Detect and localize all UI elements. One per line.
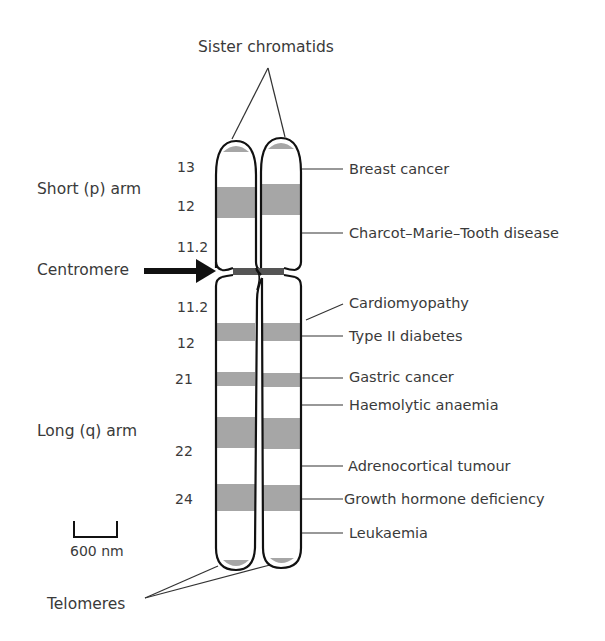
sister-chromatids-pointer xyxy=(232,68,285,139)
band-number-q12: 12 xyxy=(177,336,195,350)
sister-chromatids-label: Sister chromatids xyxy=(198,40,334,56)
disease-label-gastric-cancer: Gastric cancer xyxy=(349,370,454,385)
disease-label-haemolytic-anaemia: Haemolytic anaemia xyxy=(349,398,499,413)
telomeres-pointer xyxy=(145,565,270,598)
disease-label-leukaemia: Leukaemia xyxy=(349,526,428,541)
band-number-q21: 21 xyxy=(175,372,193,386)
band-number-q11-2: 11.2 xyxy=(177,300,208,314)
disease-label-type-ii-diabetes: Type II diabetes xyxy=(349,329,462,344)
scale-bar xyxy=(74,521,117,537)
disease-label-breast-cancer: Breast cancer xyxy=(349,162,449,177)
disease-label-charcot-marie-tooth: Charcot–Marie–Tooth disease xyxy=(349,226,559,241)
band-number-q24: 24 xyxy=(175,492,193,506)
centromere-label: Centromere xyxy=(37,263,129,279)
disease-label-growth-hormone-deficiency: Growth hormone deficiency xyxy=(344,492,545,507)
disease-leader-lines xyxy=(302,169,343,533)
centromere-arrow xyxy=(144,259,216,283)
right-chromatid-p-arm xyxy=(261,138,301,270)
left-chromatid-q-arm xyxy=(216,277,262,570)
short-arm-label: Short (p) arm xyxy=(37,182,141,198)
long-arm-label: Long (q) arm xyxy=(37,424,137,440)
scale-bar-label: 600 nm xyxy=(70,544,124,558)
left-chromatid-p-arm xyxy=(216,141,260,270)
band-number-p11-2: 11.2 xyxy=(177,240,208,254)
band-number-p12: 12 xyxy=(177,199,195,213)
disease-label-adrenocortical-tumour: Adrenocortical tumour xyxy=(348,459,511,474)
disease-label-cardiomyopathy: Cardiomyopathy xyxy=(349,296,469,311)
band-number-p13: 13 xyxy=(177,160,195,174)
right-chromatid-q-arm xyxy=(256,270,301,568)
band-number-q22: 22 xyxy=(175,444,193,458)
telomeres-label: Telomeres xyxy=(47,597,125,613)
